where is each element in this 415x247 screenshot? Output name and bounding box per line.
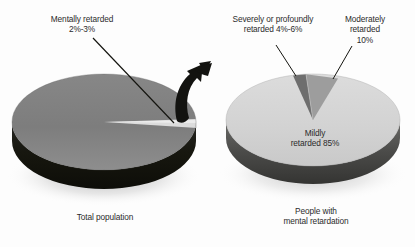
pie-chart-figure: Mentally retarded 2%-3% Severely or prof… <box>0 0 415 247</box>
callout-label-severely-profoundly: Severely or profoundly retarded 4%-6% <box>215 14 331 35</box>
callout-label-moderately-line2: retarded <box>330 24 400 34</box>
chart-caption-people-with-mental-retardation: People with mental retardation <box>255 206 377 227</box>
callout-label-moderately-line1: Moderately <box>330 14 400 24</box>
leader-line-moderately <box>333 46 352 79</box>
callout-label-severely-profoundly-line2: retarded 4%-6% <box>215 24 331 34</box>
callout-label-mentally-retarded-line1: Mentally retarded <box>26 14 138 24</box>
left-pie-total-population <box>12 74 197 189</box>
slice-label-mildly-retarded: Mildly retarded 85% <box>272 128 358 149</box>
callout-label-moderately: Moderately retarded 10% <box>330 14 400 45</box>
slice-label-mildly-retarded-line2: retarded 85% <box>272 138 358 148</box>
leader-line-severely-profoundly <box>276 45 296 76</box>
chart-caption-people-with-mental-retardation-line2: mental retardation <box>255 216 377 226</box>
chart-caption-total-population-line1: Total population <box>50 212 160 222</box>
slice-label-mildly-retarded-line1: Mildly <box>272 128 358 138</box>
callout-label-mentally-retarded-line2: 2%-3% <box>26 24 138 34</box>
callout-label-moderately-line3: 10% <box>330 35 400 45</box>
chart-caption-total-population: Total population <box>50 212 160 222</box>
callout-label-severely-profoundly-line1: Severely or profoundly <box>215 14 331 24</box>
chart-caption-people-with-mental-retardation-line1: People with <box>255 206 377 216</box>
callout-label-mentally-retarded: Mentally retarded 2%-3% <box>26 14 138 35</box>
